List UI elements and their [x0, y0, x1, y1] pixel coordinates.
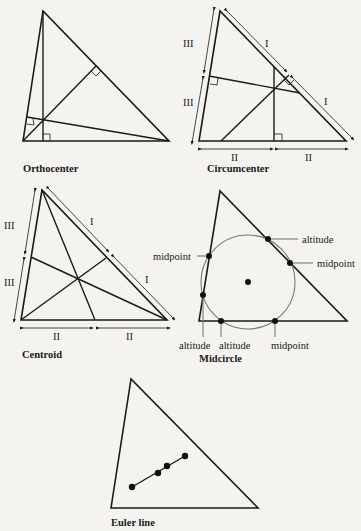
mark-I: I — [90, 216, 94, 227]
mark-III: III — [183, 97, 194, 108]
circumcenter-figure: I I III III II II Circumcenter — [183, 9, 353, 174]
measure-arrow — [292, 77, 353, 139]
mark-II: II — [126, 331, 133, 342]
mark-I: I — [324, 96, 328, 107]
orthocenter-caption: Orthocenter — [23, 163, 79, 174]
circumcenter-dot — [182, 453, 188, 459]
label-altitude: altitude — [302, 234, 334, 245]
right-angle-mark — [274, 134, 282, 141]
measure-arrow — [226, 10, 286, 71]
centroid-figure: I I III III II II Centroid — [4, 188, 174, 360]
mark-II: II — [53, 331, 60, 342]
mark-II: II — [305, 152, 312, 163]
label-midpoint: midpoint — [153, 251, 191, 262]
centroid-triangle — [21, 190, 167, 320]
centroid-dot — [164, 463, 170, 469]
right-angle-mark — [91, 71, 101, 76]
mark-I: I — [145, 274, 149, 285]
euler-caption: Euler line — [111, 517, 155, 528]
circumcenter-caption: Circumcenter — [207, 163, 270, 174]
orthocenter-dot — [129, 484, 135, 490]
measure-arrow — [204, 9, 214, 72]
measure-arrow — [192, 78, 203, 143]
right-angle-mark — [27, 118, 34, 125]
mark-III: III — [183, 38, 194, 49]
midcircle-center-dot — [155, 470, 161, 476]
right-angle-mark — [210, 78, 218, 85]
measure-arrow — [48, 188, 108, 251]
median-b — [21, 258, 106, 320]
circle-center-dot — [245, 279, 251, 285]
median-c — [31, 257, 167, 320]
euler-figure: Euler line — [111, 379, 258, 528]
mark-III: III — [4, 277, 15, 288]
mark-III: III — [4, 220, 15, 231]
altitude-b — [23, 66, 96, 141]
midcircle-caption: Midcircle — [199, 353, 242, 364]
point-dot — [265, 236, 271, 242]
point-dot — [206, 253, 212, 259]
mark-II: II — [231, 152, 238, 163]
mark-I: I — [265, 38, 269, 49]
label-altitude: altitude — [179, 340, 211, 351]
right-angle-mark — [43, 134, 50, 141]
label-midpoint: midpoint — [271, 340, 309, 351]
centroid-caption: Centroid — [22, 349, 62, 360]
point-dot — [218, 318, 224, 324]
altitude-c — [27, 117, 169, 141]
point-dot — [200, 292, 206, 298]
label-altitude: altitude — [219, 340, 251, 351]
circumcenter-triangle — [199, 11, 346, 141]
point-dot — [272, 318, 278, 324]
midcircle-triangle — [199, 191, 347, 321]
orthocenter-figure: Orthocenter — [23, 11, 169, 174]
label-midpoint: midpoint — [317, 258, 355, 269]
point-dot — [287, 260, 293, 266]
geometry-diagram: Orthocenter I I III III II II Circumcent… — [0, 0, 361, 531]
midcircle-figure: altitude midpoint midpoint altitude alti… — [153, 191, 355, 364]
